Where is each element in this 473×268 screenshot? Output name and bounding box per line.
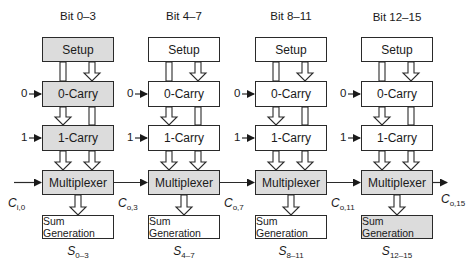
carry-in-label-1: Co,3 bbox=[118, 196, 138, 212]
carry-in-label-2-subscript: o,7 bbox=[233, 203, 244, 212]
mux-block-0: Multiplexer bbox=[42, 170, 114, 195]
sum-output-label-1: S4–7 bbox=[148, 244, 220, 260]
setup-block-1: Setup bbox=[148, 37, 220, 62]
carry-in-label-0: Ci,0 bbox=[8, 196, 25, 212]
sum-output-label-2: S8–11 bbox=[255, 244, 327, 260]
setup-block-3: Setup bbox=[361, 37, 433, 62]
carry1-block-1: 1-Carry bbox=[148, 125, 220, 151]
carry1-block-0: 1-Carry bbox=[42, 125, 114, 151]
sum-block-1: Sum Generation bbox=[148, 215, 220, 239]
carry-in-label-0-symbol: C bbox=[8, 196, 17, 210]
sum-block-2: Sum Generation bbox=[255, 215, 327, 239]
carry1-input-label-3: 1 bbox=[340, 131, 346, 143]
sum-output-label-1-subscript: 4–7 bbox=[181, 251, 194, 260]
column-title-1: Bit 4–7 bbox=[144, 10, 224, 22]
setup-block-2: Setup bbox=[255, 37, 327, 62]
sum-output-label-2-subscript: 8–11 bbox=[286, 251, 303, 260]
carry0-block-2: 0-Carry bbox=[255, 81, 327, 107]
mux-block-1: Multiplexer bbox=[148, 170, 220, 195]
carry1-input-label-1: 1 bbox=[127, 131, 133, 143]
column-title-3: Bit 12–15 bbox=[357, 11, 437, 23]
sum-output-label-3-subscript: 12–15 bbox=[390, 251, 412, 260]
carry0-input-label-1: 0 bbox=[127, 87, 133, 99]
carry1-input-label-0: 1 bbox=[21, 131, 27, 143]
carry0-input-label-0: 0 bbox=[21, 87, 27, 99]
carry-in-label-2-symbol: C bbox=[224, 196, 233, 210]
sum-block-0: Sum Generation bbox=[42, 215, 114, 239]
mux-block-2: Multiplexer bbox=[255, 170, 327, 195]
sum-output-label-3: S12–15 bbox=[361, 244, 433, 260]
carry0-block-0: 0-Carry bbox=[42, 81, 114, 107]
sum-block-3: Sum Generation bbox=[361, 215, 433, 239]
carry1-input-label-2: 1 bbox=[234, 131, 240, 143]
carry-in-label-3-subscript: o,11 bbox=[340, 203, 355, 212]
carry0-input-label-2: 0 bbox=[234, 87, 240, 99]
carry-in-label-3: Co,11 bbox=[331, 196, 355, 212]
carry0-block-3: 0-Carry bbox=[361, 81, 433, 107]
carry0-block-1: 0-Carry bbox=[148, 81, 220, 107]
column-title-0: Bit 0–3 bbox=[38, 10, 118, 22]
carry-in-label-3-symbol: C bbox=[331, 196, 340, 210]
sum-output-label-3-symbol: S bbox=[382, 244, 390, 258]
column-title-2: Bit 8–11 bbox=[251, 10, 331, 22]
carry0-input-label-3: 0 bbox=[340, 87, 346, 99]
carry-in-label-0-subscript: i,0 bbox=[17, 203, 25, 212]
carry-in-label-1-subscript: o,3 bbox=[127, 203, 138, 212]
carry-out-label: Co,15 bbox=[441, 192, 465, 208]
carry-in-label-2: Co,7 bbox=[224, 196, 244, 212]
sum-output-label-0: S0–3 bbox=[42, 244, 114, 260]
mux-block-3: Multiplexer bbox=[361, 170, 433, 195]
sum-output-label-0-subscript: 0–3 bbox=[75, 251, 88, 260]
carry-in-label-1-symbol: C bbox=[118, 196, 127, 210]
carry1-block-3: 1-Carry bbox=[361, 125, 433, 151]
carry-out-label-symbol: C bbox=[441, 192, 450, 206]
carry-out-label-subscript: o,15 bbox=[450, 199, 466, 208]
carry1-block-2: 1-Carry bbox=[255, 125, 327, 151]
setup-block-0: Setup bbox=[42, 37, 114, 62]
